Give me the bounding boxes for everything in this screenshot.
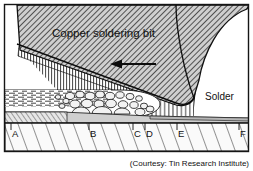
substrate [5, 123, 249, 151]
zone-marker-f: F [240, 128, 246, 139]
zone-marker-c: C [134, 128, 141, 139]
soldering-bit-diagram: Copper soldering bit Solder A B C D E F … [0, 0, 253, 171]
solder-label: Solder [205, 91, 235, 102]
figure-container: Copper soldering bit Solder A B C D E F … [0, 0, 253, 171]
zone-marker-b: B [90, 128, 96, 139]
copper-bit-label: Copper soldering bit [52, 27, 156, 39]
zone-marker-a: A [12, 128, 19, 139]
zone-marker-d: D [146, 128, 153, 139]
substrate-body [5, 123, 249, 151]
zone-marker-e: E [178, 128, 184, 139]
film-hatched-left [5, 112, 67, 123]
courtesy-credit: (Courtesy: Tin Research Institute) [130, 159, 249, 168]
